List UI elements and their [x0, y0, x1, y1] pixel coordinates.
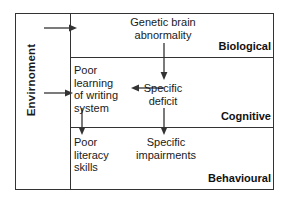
node-poor-learning-of-writing-system: Poor learning of writing system — [74, 64, 130, 114]
biological-cognitive-divider — [70, 57, 274, 58]
node-specific-impairments: Specific impairments — [124, 136, 208, 161]
node-genetic-brain-abnormality: Genetic brain abnormality — [110, 16, 216, 41]
arrow-environment-to-biological — [44, 23, 78, 33]
level-label-cognitive: Cognitive — [221, 110, 271, 122]
level-label-behavioural: Behavioural — [208, 172, 271, 184]
node-specific-deficit: Specific deficit — [124, 82, 202, 107]
level-label-biological: Biological — [218, 40, 271, 52]
environment-column-divider — [70, 13, 71, 190]
arrow-environment-to-cognitive — [44, 88, 74, 98]
environment-label: Envirnoment — [25, 25, 37, 135]
cognitive-behavioural-divider — [70, 127, 274, 128]
arrow-specific-deficit-to-specific-impairments — [158, 108, 170, 136]
diagram-canvas: Envirnoment — [0, 0, 289, 202]
arrow-genetic-to-specific-deficit — [158, 43, 170, 81]
node-poor-literacy-skills: Poor literacy skills — [74, 136, 128, 174]
